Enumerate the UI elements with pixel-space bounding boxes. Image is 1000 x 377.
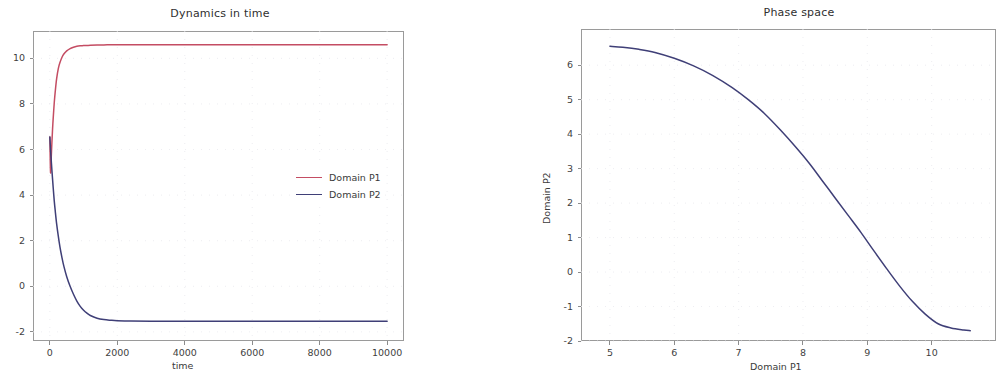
x-tick-mark [738,341,739,345]
y-tick-label: 10 [0,52,25,63]
x-tick-mark [867,341,868,345]
y-tick-label: 4 [537,128,573,139]
x-tick-label: 4000 [155,347,215,358]
y-tick-mark [30,331,34,332]
y-tick-label: 5 [537,94,573,105]
x-tick-mark [609,341,610,345]
y-tick-mark [578,306,582,307]
y-tick-mark [578,237,582,238]
x-tick-mark [319,341,320,345]
y-tick-mark [30,58,34,59]
x-tick-mark [387,341,388,345]
y-tick-mark [578,168,582,169]
x-axis-label-dynamics: time [172,360,193,371]
y-tick-label: -1 [537,301,573,312]
y-tick-mark [30,195,34,196]
chart-panel-dynamics-in-time: Dynamics in time -20246810 0200040006000… [0,0,469,377]
y-tick-label: -2 [537,335,573,346]
x-tick-mark [252,341,253,345]
y-tick-mark [30,240,34,241]
y-tick-mark [30,149,34,150]
y-tick-mark [578,99,582,100]
x-tick-label: 7 [709,347,769,358]
x-tick-label: 9 [837,347,897,358]
legend-line-swatch-icon [296,177,322,178]
y-tick-label: 6 [537,59,573,70]
y-tick-mark [30,286,34,287]
legend-label: Domain P1 [329,172,381,183]
y-tick-label: 6 [0,144,25,155]
y-tick-mark [30,103,34,104]
x-tick-label: 6 [644,347,704,358]
x-tick-mark [931,341,932,345]
y-tick-label: 8 [0,98,25,109]
x-tick-label: 2000 [87,347,147,358]
y-tick-label: 0 [0,280,25,291]
x-tick-mark [117,341,118,345]
y-tick-mark [578,203,582,204]
y-tick-mark [578,341,582,342]
legend-item-domain-p1[interactable]: Domain P1 [296,169,381,186]
y-tick-label: 1 [537,232,573,243]
x-tick-label: 5 [580,347,640,358]
x-tick-mark [49,341,50,345]
plot-lines-phase-space [469,0,938,377]
x-tick-label: 10000 [357,347,417,358]
x-tick-mark [674,341,675,345]
y-tick-mark [578,272,582,273]
x-tick-label: 8000 [290,347,350,358]
legend-dynamics[interactable]: Domain P1Domain P2 [292,167,385,205]
x-tick-mark [184,341,185,345]
x-tick-label: 6000 [222,347,282,358]
chart-panel-phase-space: Phase space -2-10123456 5678910 Domain P… [469,0,938,377]
y-tick-mark [578,65,582,66]
y-tick-label: 0 [537,266,573,277]
x-tick-mark [802,341,803,345]
y-axis-label-phase-space: Domain P2 [541,172,552,224]
y-tick-label: -2 [0,326,25,337]
legend-item-domain-p2[interactable]: Domain P2 [296,186,381,203]
y-tick-label: 4 [0,189,25,200]
legend-label: Domain P2 [329,189,381,200]
x-tick-label: 10 [902,347,962,358]
x-tick-label: 0 [20,347,80,358]
legend-line-swatch-icon [296,194,322,195]
x-axis-label-phase-space: Domain P1 [750,361,802,372]
x-tick-label: 8 [773,347,833,358]
y-tick-mark [578,134,582,135]
y-tick-label: 2 [0,235,25,246]
